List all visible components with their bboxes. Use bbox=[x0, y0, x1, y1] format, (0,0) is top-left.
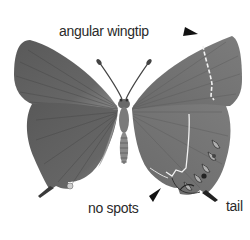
right-forewing bbox=[132, 36, 242, 110]
annotation-tail: tail bbox=[226, 199, 243, 213]
wingtip-arrow-icon bbox=[183, 27, 198, 36]
left-hindwing bbox=[27, 103, 118, 198]
butterfly-body bbox=[118, 99, 130, 165]
left-forewing bbox=[14, 40, 118, 110]
annotation-angular-wingtip: angular wingtip bbox=[59, 24, 149, 38]
right-hindwing bbox=[132, 104, 231, 202]
annotation-no-spots: no spots bbox=[88, 201, 139, 215]
nospots-arrow-icon bbox=[149, 188, 161, 202]
